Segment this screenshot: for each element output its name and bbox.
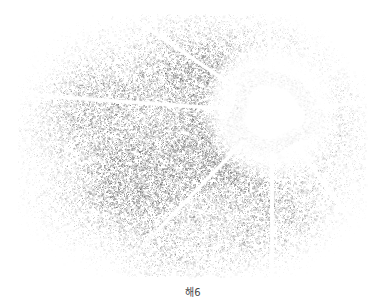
figure-caption: 해6 — [0, 282, 386, 307]
figure-root: 해6 — [0, 0, 386, 307]
noise-field-plate — [0, 0, 386, 282]
noise-field-canvas — [0, 0, 386, 282]
caption-label: 해6 — [185, 282, 200, 299]
